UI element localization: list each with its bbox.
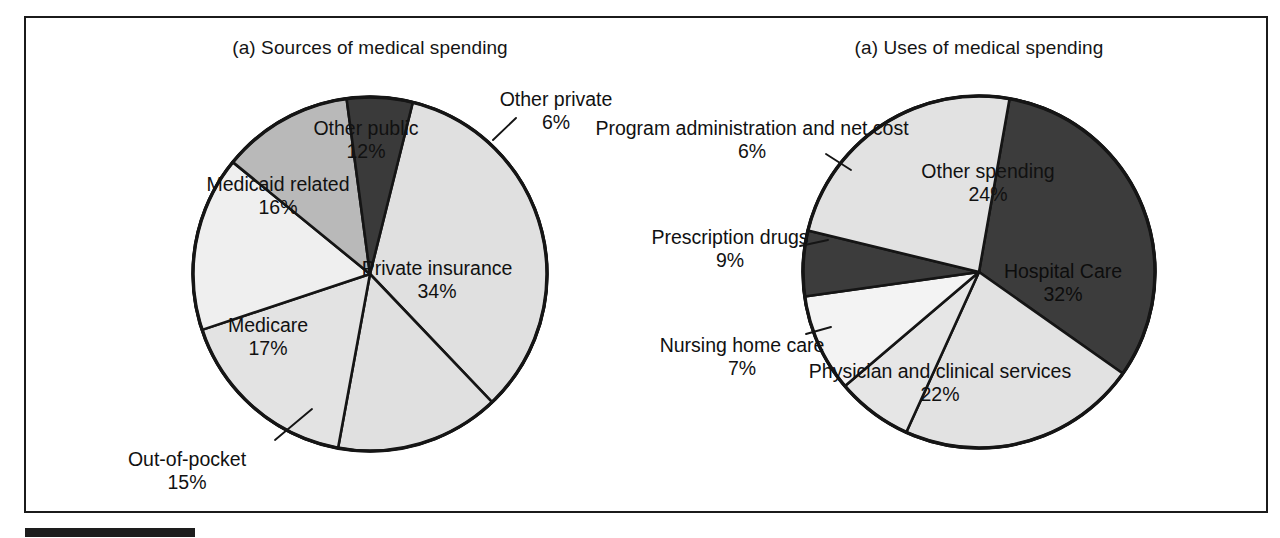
pie-slice-label-name: Private insurance — [362, 257, 513, 279]
pie-slice-label-name: Medicaid related — [206, 173, 349, 195]
pie-slice-label-name: Other private — [500, 88, 613, 110]
pie-slice-label-name: Other public — [313, 117, 418, 139]
pie-slice-label: Out-of-pocket15% — [128, 448, 246, 493]
pie-slice-label-percent: 15% — [128, 470, 246, 493]
pie-slice-label: Nursing home care7% — [660, 334, 825, 379]
pie-slice-label: Medicare17% — [228, 314, 308, 359]
pie-slice-label-name: Medicare — [228, 314, 308, 336]
pie-slice-label: Program administration and net cost6% — [595, 117, 908, 162]
pie-slice-label-name: Physician and clinical services — [809, 360, 1071, 382]
pie-slice-label-percent: 32% — [1004, 282, 1122, 305]
pie-slice-label-name: Hospital Care — [1004, 260, 1122, 282]
pie-slice-label-percent: 24% — [921, 182, 1054, 205]
pie-slice-label: Other public12% — [313, 117, 418, 162]
right-chart-title: (a) Uses of medical spending — [855, 37, 1104, 59]
pie-slice-label: Hospital Care32% — [1004, 260, 1122, 305]
footer-rule — [25, 528, 195, 537]
pie-slice-label-percent: 22% — [809, 382, 1071, 405]
pie-slice-label-name: Nursing home care — [660, 334, 825, 356]
left-chart-title: (a) Sources of medical spending — [232, 37, 508, 59]
pie-slice-label-percent: 6% — [595, 139, 908, 162]
pie-slice-label-name: Other spending — [921, 160, 1054, 182]
pie-slice-label-percent: 34% — [362, 279, 513, 302]
pie-slice-label: Physician and clinical services22% — [809, 360, 1071, 405]
pie-slice-label-percent: 17% — [228, 336, 308, 359]
pie-slice-label-name: Program administration and net cost — [595, 117, 908, 139]
pie-slice-label: Private insurance34% — [362, 257, 513, 302]
pie-slice-label-percent: 9% — [651, 248, 808, 271]
pie-slice-label-percent: 12% — [313, 139, 418, 162]
pie-slice-label-name: Out-of-pocket — [128, 448, 246, 470]
pie-slice-label-percent: 16% — [206, 195, 349, 218]
pie-slice-label: Prescription drugs9% — [651, 226, 808, 271]
pie-slice-label-percent: 7% — [660, 356, 825, 379]
pie-slice-label-name: Prescription drugs — [651, 226, 808, 248]
pie-slice-label: Medicaid related16% — [206, 173, 349, 218]
pie-slice-label: Other spending24% — [921, 160, 1054, 205]
